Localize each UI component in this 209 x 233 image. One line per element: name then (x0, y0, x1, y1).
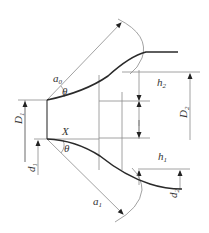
label-X: X (61, 125, 70, 137)
label-d1: d1 (25, 163, 39, 172)
label-a0: a0 (53, 72, 63, 86)
a0-arc (118, 19, 144, 74)
label-h1: h1 (158, 150, 167, 164)
a1-arc (115, 168, 142, 222)
label-D2: D2 (177, 106, 191, 119)
a1-radius-arrow (47, 139, 123, 214)
label-theta-top: θ (62, 85, 68, 97)
nozzle-diagram: a0 θ X θ a1 h2 h1 D1 d1 D2 d2 (0, 0, 209, 233)
label-theta-bottom: θ (64, 142, 70, 154)
label-d2: d2 (167, 189, 181, 199)
label-D1: D1 (12, 113, 26, 125)
label-a1: a1 (93, 195, 102, 209)
label-h2: h2 (157, 76, 167, 90)
